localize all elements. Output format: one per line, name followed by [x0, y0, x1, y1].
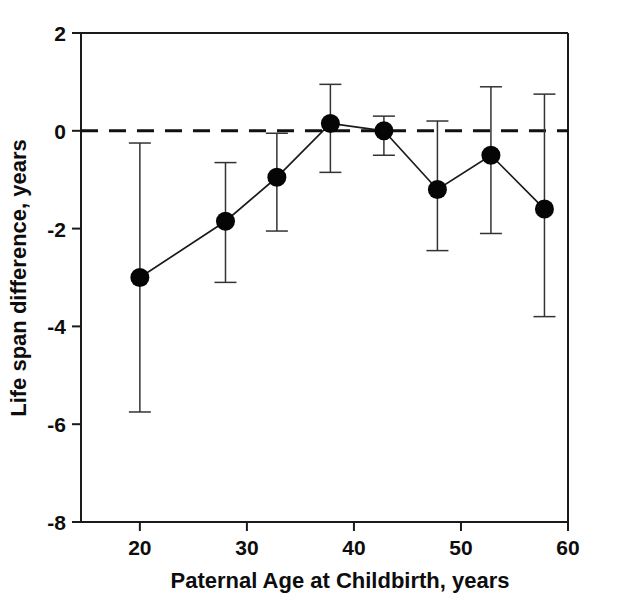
x-axis-title: Paternal Age at Childbirth, years: [170, 568, 509, 593]
x-tick-label: 60: [556, 536, 579, 559]
data-point-marker: [216, 212, 235, 231]
x-tick-label: 40: [342, 536, 365, 559]
x-axis-ticks: 2030405060: [128, 522, 579, 559]
data-point-marker: [267, 168, 286, 187]
data-point-marker: [481, 146, 500, 165]
data-point-marker: [321, 114, 340, 133]
x-tick-label: 50: [449, 536, 472, 559]
error-bars: [129, 84, 556, 412]
x-tick-label: 30: [235, 536, 258, 559]
data-point-marker: [535, 200, 554, 219]
series-line: [140, 123, 545, 277]
y-tick-label: -2: [47, 218, 66, 241]
data-point-marker: [428, 180, 447, 199]
y-axis-title: Life span difference, years: [6, 139, 31, 417]
data-point-marker: [374, 121, 393, 140]
plot-frame: [81, 33, 568, 522]
x-tick-label: 20: [128, 536, 151, 559]
y-axis-ticks: 20-2-4-6-8: [47, 22, 81, 534]
chart-container: 20-2-4-6-8 2030405060 Life span differen…: [0, 0, 626, 605]
y-tick-label: -4: [47, 315, 66, 338]
line-chart: 20-2-4-6-8 2030405060 Life span differen…: [0, 0, 626, 605]
y-tick-label: 2: [54, 22, 66, 45]
y-tick-label: -6: [47, 413, 66, 436]
data-point-marker: [130, 268, 149, 287]
y-tick-label: 0: [54, 120, 66, 143]
y-tick-label: -8: [47, 511, 66, 534]
